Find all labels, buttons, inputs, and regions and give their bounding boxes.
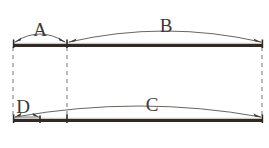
dimension-diagram: A B C D	[0, 0, 269, 148]
dimension-c-group	[15, 106, 262, 118]
bottom-bar-group	[13, 115, 263, 124]
label-a: A	[33, 19, 47, 40]
label-b: B	[160, 15, 173, 36]
top-bar-group	[13, 40, 263, 49]
diagram-canvas: A B C D	[0, 0, 269, 148]
dimension-c-arc	[15, 106, 261, 117]
extension-lines-group	[13, 47, 262, 118]
label-d: D	[16, 96, 30, 117]
dimension-a-arrow-left	[14, 38, 22, 43]
dimension-a-arrow-right	[59, 38, 67, 43]
label-c: C	[146, 94, 159, 115]
